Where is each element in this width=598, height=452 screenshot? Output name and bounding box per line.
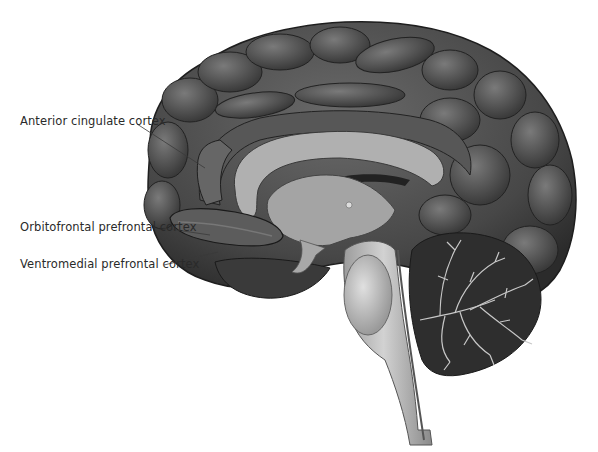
temporal-lobe xyxy=(215,258,330,298)
label-ventromedial-prefrontal-cortex: Ventromedial prefrontal cortex xyxy=(20,257,199,271)
cerebellum xyxy=(409,233,541,376)
label-orbitofrontal-prefrontal-cortex: Orbitofrontal prefrontal cortex xyxy=(20,220,197,234)
pons xyxy=(344,255,392,335)
label-anterior-cingulate-cortex: Anterior cingulate cortex xyxy=(20,114,166,128)
brain-diagram: Anterior cingulate cortex Orbitofrontal … xyxy=(0,0,598,452)
